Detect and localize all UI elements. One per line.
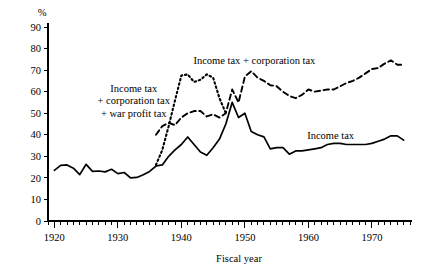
- x-tick-label: 1970: [361, 232, 382, 243]
- y-tick-label: 10: [31, 194, 42, 205]
- y-tick-label: 20: [31, 173, 42, 184]
- tax-rate-line-chart: 0102030405060708090%19201930194019501960…: [0, 0, 436, 277]
- x-tick-label: 1930: [107, 232, 128, 243]
- y-axis-unit-label: %: [38, 7, 47, 18]
- income-tax-label: Income tax: [307, 130, 355, 141]
- y-tick-label: 80: [31, 43, 42, 54]
- x-axis-title: Fiscal year: [216, 253, 262, 264]
- y-tick-label: 50: [31, 108, 42, 119]
- y-tick-label: 60: [31, 86, 42, 97]
- series-line-1: [156, 60, 404, 134]
- y-tick-label: 40: [31, 129, 42, 140]
- income-corporation-war-profit-label: Income tax: [110, 83, 158, 94]
- y-tick-label: 30: [31, 151, 42, 162]
- chart-page: 0102030405060708090%19201930194019501960…: [0, 0, 436, 277]
- y-tick-label: 70: [31, 65, 42, 76]
- income-corporation-war-profit-label: + corporation tax: [98, 95, 171, 106]
- y-tick-label: 0: [36, 216, 41, 227]
- x-tick-label: 1960: [298, 232, 319, 243]
- series-line-2: [156, 74, 226, 165]
- x-tick-label: 1950: [234, 232, 255, 243]
- x-tick-label: 1920: [44, 232, 65, 243]
- y-tick-label: 90: [31, 22, 42, 33]
- income-corporation-war-profit-label: + war profit tax: [101, 108, 167, 119]
- income-corporation-label: Income tax + corporation tax: [193, 55, 316, 66]
- x-tick-label: 1940: [171, 232, 192, 243]
